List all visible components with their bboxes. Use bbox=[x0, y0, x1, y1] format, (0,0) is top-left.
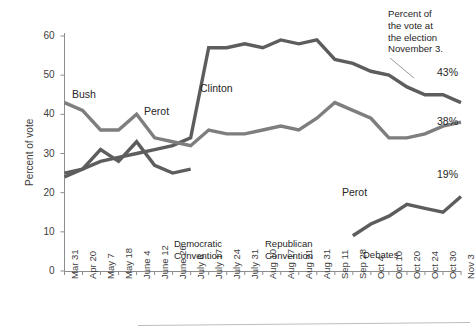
annotation-debates-line: Debates bbox=[363, 249, 398, 261]
x-tick-label: July 24 bbox=[231, 249, 242, 279]
x-tick-label: Apr 20 bbox=[87, 251, 98, 279]
series-label-bush: Bush bbox=[72, 88, 96, 100]
callout-leader-line bbox=[390, 58, 414, 78]
annotation-rep-line-1: Republican bbox=[265, 238, 313, 250]
bottom-divider bbox=[138, 323, 470, 326]
x-tick-label: Oct 30 bbox=[447, 251, 458, 279]
y-tick-label: 50 bbox=[37, 69, 55, 80]
x-tick-label: Oct 24 bbox=[429, 251, 440, 279]
end-label-perot: 19% bbox=[437, 168, 458, 180]
callout-line-3: the election bbox=[388, 32, 443, 44]
series-line-perot bbox=[353, 197, 461, 236]
x-tick-label: Oct 20 bbox=[411, 251, 422, 279]
x-tick-label: Nov 3 bbox=[465, 254, 476, 279]
end-label-bush: 38% bbox=[437, 115, 458, 127]
end-label-clinton: 43% bbox=[437, 66, 458, 78]
series-group bbox=[65, 40, 462, 236]
x-tick-label: Mar 31 bbox=[69, 249, 80, 279]
series-line-bush bbox=[65, 103, 462, 146]
series-label-clinton: Clinton bbox=[200, 82, 233, 94]
series-label-perot-early: Perot bbox=[144, 105, 169, 117]
axes bbox=[61, 33, 462, 275]
y-tick-label: 20 bbox=[37, 187, 55, 198]
callout-line-1: Percent of bbox=[388, 8, 443, 20]
x-tick-label: Aug 31 bbox=[321, 249, 332, 279]
x-tick-label: May 18 bbox=[123, 248, 134, 279]
y-tick-label: 60 bbox=[37, 30, 55, 41]
callout-leader bbox=[390, 58, 414, 78]
y-tick-label: 40 bbox=[37, 108, 55, 119]
annotation-dem-line-2: Convention bbox=[174, 250, 222, 262]
series-label-perot-late: Perot bbox=[342, 186, 367, 198]
callout-line-2: the vote at bbox=[388, 20, 443, 32]
annotation-republican-convention: Republican Convention bbox=[265, 238, 313, 262]
annotation-democratic-convention: Democratic Convention bbox=[174, 238, 222, 262]
x-tick-label: May 7 bbox=[105, 253, 116, 279]
x-tick-label: Sep 11 bbox=[339, 250, 350, 279]
y-axis-ticks bbox=[61, 36, 65, 271]
y-tick-label: 0 bbox=[37, 265, 55, 276]
election-callout: Percent of the vote at the election Nove… bbox=[388, 8, 443, 55]
annotation-debates: Debates bbox=[363, 249, 398, 261]
y-tick-label: 30 bbox=[37, 148, 55, 159]
x-tick-label: June 4 bbox=[141, 250, 152, 279]
annotation-rep-line-2: Convention bbox=[265, 250, 313, 262]
x-tick-label: July 31 bbox=[249, 249, 260, 279]
x-tick-label: June 12 bbox=[159, 245, 170, 279]
y-tick-label: 10 bbox=[37, 226, 55, 237]
callout-line-4: November 3. bbox=[388, 43, 443, 55]
y-axis-title: Percent of vote bbox=[24, 119, 35, 186]
annotation-dem-line-1: Democratic bbox=[174, 238, 222, 250]
